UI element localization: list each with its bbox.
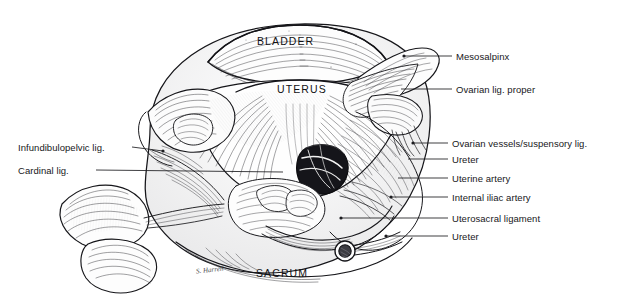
callout-label-cardinal-lig: Cardinal lig. <box>18 166 69 176</box>
callout-label-ovarian-vessels: Ovarian vessels/suspensory lig. <box>452 139 587 149</box>
leader-dot-mesosalpinx <box>402 54 405 57</box>
leader-dot-ureter-lower <box>384 234 387 237</box>
callout-label-internal-iliac: Internal iliac artery <box>452 193 531 203</box>
leader-dot-internal-iliac <box>389 195 392 198</box>
callout-label-ureter-upper: Ureter <box>452 155 479 165</box>
callout-label-ureter-lower: Ureter <box>452 232 479 242</box>
leader-dot-infundibulopelvic-lig <box>161 149 164 152</box>
leader-dot-ovarian-vessels <box>411 141 414 144</box>
callout-label-infundibulopelvic-lig: Infundibulopelvic lig. <box>18 143 105 153</box>
pelvic-anatomy-figure: BLADDERUTERUSSACRUM MesosalpinxOvarian l… <box>0 0 639 300</box>
organ-label-bladder: BLADDER <box>257 36 314 47</box>
callout-label-uterosacral-lig: Uterosacral ligament <box>452 214 540 224</box>
callout-label-mesosalpinx: Mesosalpinx <box>456 52 509 62</box>
callout-label-ovarian-lig-proper: Ovarian lig. proper <box>456 85 535 95</box>
organ-label-sacrum: SACRUM <box>256 268 308 279</box>
organ-label-uterus: UTERUS <box>277 84 327 95</box>
leader-dot-uterosacral-lig <box>339 216 342 219</box>
callout-label-uterine-artery: Uterine artery <box>452 174 510 184</box>
